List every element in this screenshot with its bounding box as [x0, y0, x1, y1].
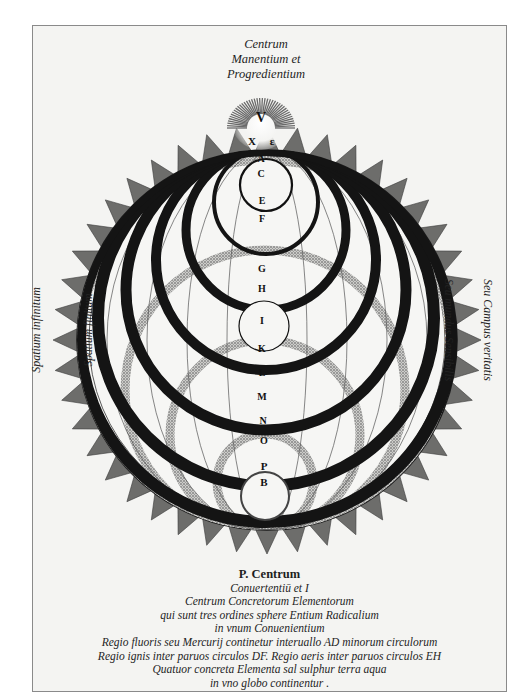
legend-line: in vnum Conuenientium: [32, 622, 507, 636]
letter-b: B: [260, 476, 267, 488]
side-label-mundus-sensibilis: Seu mundus Sensibilis: [443, 279, 455, 381]
legend-line: Conuertentiū et I: [32, 582, 507, 596]
legend-line: Regio fluoris seu Mercurij continetur in…: [32, 636, 507, 650]
letter-epsilon: ɛ: [270, 135, 275, 147]
legend-line: qui sunt tres ordines sphere Entium Radi…: [32, 609, 507, 623]
letter-x: X: [248, 135, 256, 147]
letter-n: N: [259, 415, 266, 426]
letter-c: C: [257, 168, 264, 179]
letter-a: A: [257, 153, 264, 164]
side-label-campus-veritatis: Seu Campus veritatis: [480, 279, 495, 381]
legend-line: Regio ignis inter paruos circulos DF. Re…: [32, 650, 507, 664]
letter-f: F: [259, 213, 265, 224]
legend-line: in vno globo continentur .: [32, 677, 507, 691]
letter-g: G: [258, 263, 266, 274]
letter-m: M: [257, 391, 266, 402]
circle-ac: [240, 159, 292, 211]
legend-line: Quatuor concreta Elementa sal sulphur te…: [32, 663, 507, 677]
letter-i: I: [260, 315, 264, 326]
letter-v: V: [256, 110, 266, 126]
letter-p: P: [261, 460, 268, 472]
legend-caption: P. Centrum Conuertentiū et I Centrum Con…: [32, 568, 507, 690]
legend-title: P. Centrum: [32, 568, 507, 582]
letter-e: E: [259, 195, 266, 206]
letter-o: O: [260, 435, 268, 446]
letter-k: K: [258, 343, 266, 354]
letter-h: H: [258, 283, 266, 294]
side-label-spatium-infinitum: Spatium infinitum: [29, 287, 44, 373]
letter-l: L: [259, 367, 266, 378]
side-label-spatium-finitum: Spatium finitum: [82, 293, 94, 366]
legend-line: Centrum Concretorum Elementorum: [32, 595, 507, 609]
